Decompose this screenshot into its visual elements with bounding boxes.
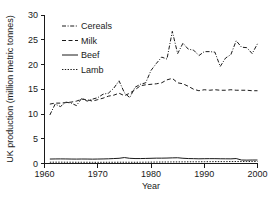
y-tick-label: 10 [28,109,38,119]
y-tick-label: 25 [28,35,38,45]
x-axis-title: Year [142,181,160,191]
y-tick-label: 0 [33,159,38,169]
y-tick-label: 5 [33,134,38,144]
y-tick-label: 15 [28,84,38,94]
x-tick-label: 2000 [247,169,267,179]
x-tick-label: 1970 [88,169,108,179]
y-tick-label: 20 [28,60,38,70]
x-tick-label: 1990 [194,169,214,179]
line-chart-canvas: 051015202530 UK production (million metr… [0,0,270,199]
legend-label-beef: Beef [81,50,100,60]
chart-figure: 051015202530 UK production (million metr… [0,0,270,199]
y-tick-label: 30 [28,10,38,20]
y-axis-title: UK production (million metric tonnes) [5,15,15,163]
legend-label-cereals: Cereals [81,21,113,31]
x-tick-label: 1980 [141,169,161,179]
legend-label-milk: Milk [81,36,97,46]
x-tick-label: 1960 [34,169,54,179]
legend-label-lamb: Lamb [81,65,104,75]
